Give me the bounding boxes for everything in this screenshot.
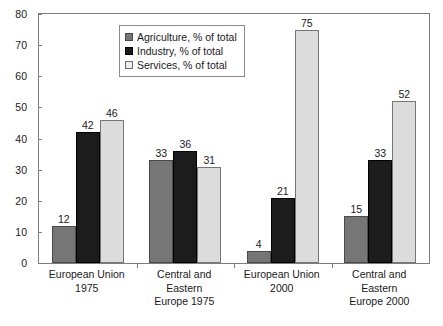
x-axis-category-line: Eastern — [136, 282, 234, 296]
bar: 46 — [100, 120, 124, 263]
x-axis-category-label: European Union1975 — [38, 268, 136, 295]
bar: 36 — [173, 151, 197, 263]
bar: 52 — [392, 101, 416, 263]
y-axis-tick-label: 10 — [15, 227, 27, 238]
x-axis-category-line: European Union — [38, 268, 136, 282]
bar-value-label: 36 — [179, 139, 191, 150]
bar-value-label: 12 — [58, 214, 70, 225]
x-axis-category-line: Europe 2000 — [331, 295, 429, 309]
y-axis: 01020304050607080 — [0, 13, 33, 264]
bar: 75 — [295, 30, 319, 263]
legend-item-label: Services, % of total — [137, 60, 227, 71]
x-axis-category-line: Central and — [331, 268, 429, 282]
industry-swatch-icon — [125, 47, 133, 55]
bar-value-label: 52 — [398, 89, 410, 100]
services-swatch-icon — [125, 61, 133, 69]
x-axis-category-label: Central andEasternEurope 1975 — [136, 268, 234, 309]
y-axis-tick-label: 80 — [15, 9, 27, 20]
bar-value-label: 33 — [155, 148, 167, 159]
bar: 33 — [149, 160, 173, 263]
y-axis-tick-label: 30 — [15, 164, 27, 175]
bar: 31 — [197, 167, 221, 263]
bar-value-label: 75 — [301, 18, 313, 29]
bar: 42 — [76, 132, 100, 263]
y-axis-tick-label: 0 — [21, 258, 27, 269]
x-axis-category-line: Europe 1975 — [136, 295, 234, 309]
bar: 33 — [368, 160, 392, 263]
bar-value-label: 33 — [374, 148, 386, 159]
y-axis-tick-label: 20 — [15, 196, 27, 207]
x-axis-category-line: Eastern — [331, 282, 429, 296]
x-axis-category-line: European Union — [233, 268, 331, 282]
bar: 12 — [52, 226, 76, 263]
y-axis-tick-label: 50 — [15, 102, 27, 113]
bar-value-label: 42 — [82, 120, 94, 131]
x-axis-category-label: Central andEasternEurope 2000 — [331, 268, 429, 309]
bar: 4 — [247, 251, 271, 263]
x-axis-category-line: 2000 — [233, 282, 331, 296]
y-axis-tick-label: 70 — [15, 40, 27, 51]
bar-value-label: 31 — [203, 155, 215, 166]
bar-group: 42175 — [234, 14, 332, 263]
legend-item-label: Industry, % of total — [137, 46, 223, 57]
bar: 21 — [271, 198, 295, 263]
bar-group: 153352 — [332, 14, 430, 263]
legend-item-label: Agriculture, % of total — [137, 32, 237, 43]
grouped-bar-chart: 01020304050607080 1242463336314217515335… — [0, 0, 443, 326]
bar-value-label: 4 — [256, 239, 262, 250]
legend-item: Agriculture, % of total — [125, 30, 237, 44]
y-axis-tick-mark — [38, 263, 42, 264]
x-axis-category-line: Central and — [136, 268, 234, 282]
bar-value-label: 46 — [106, 108, 118, 119]
y-axis-tick-label: 60 — [15, 71, 27, 82]
x-axis-category-label: European Union2000 — [233, 268, 331, 295]
bar-value-label: 15 — [350, 204, 362, 215]
chart-legend: Agriculture, % of total Industry, % of t… — [119, 25, 245, 77]
x-axis-category-line: 1975 — [38, 282, 136, 296]
bar: 15 — [344, 216, 368, 263]
bar-value-label: 21 — [277, 186, 289, 197]
legend-item: Services, % of total — [125, 58, 237, 72]
agriculture-swatch-icon — [125, 33, 133, 41]
legend-item: Industry, % of total — [125, 44, 237, 58]
y-axis-tick-label: 40 — [15, 133, 27, 144]
